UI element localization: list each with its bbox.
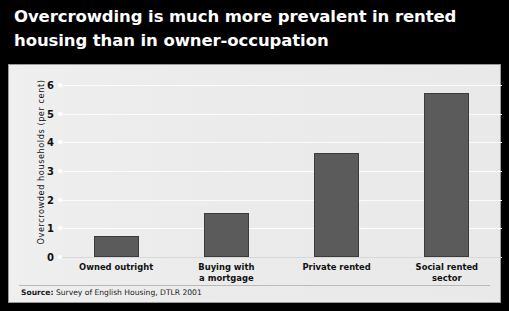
bar-1[interactable] — [204, 213, 249, 257]
y-axis-tick-label: 1 — [47, 223, 54, 234]
bar-2[interactable] — [314, 153, 359, 257]
plot-area: 0123456Owned outrightBuying with a mortg… — [61, 85, 502, 257]
gridline-0 — [61, 257, 502, 258]
y-tick-marker-6 — [58, 83, 62, 87]
source-label: Source: — [21, 288, 54, 297]
x-axis-category-label: Buying with a mortgage — [171, 262, 281, 283]
x-axis-category-label: Social rented sector — [392, 262, 502, 283]
source-note: Source: Survey of English Housing, DTLR … — [21, 288, 202, 297]
y-axis-tick-label: 3 — [47, 166, 54, 177]
y-axis-tick-label: 2 — [47, 194, 54, 205]
source-divider — [19, 285, 490, 286]
chart-panel: Overcrowded households (per cent) 012345… — [8, 64, 501, 303]
y-axis-tick-label: 4 — [47, 137, 54, 148]
y-tick-marker-3 — [58, 169, 62, 173]
y-axis-tick-label: 0 — [47, 252, 54, 263]
bar-0[interactable] — [94, 236, 139, 257]
source-text: Survey of English Housing, DTLR 2001 — [54, 288, 202, 297]
y-tick-marker-1 — [58, 226, 62, 230]
bar-3[interactable] — [424, 93, 469, 257]
title-band: Overcrowding is much more prevalent in r… — [0, 0, 509, 62]
y-axis-title: Overcrowded households (per cent) — [36, 67, 46, 257]
x-axis-category-label: Private rented — [282, 262, 392, 273]
x-axis-category-label: Owned outright — [61, 262, 171, 273]
y-tick-marker-2 — [58, 198, 62, 202]
y-tick-marker-0 — [58, 255, 62, 259]
figure-overcrowding-bar-chart: Overcrowding is much more prevalent in r… — [0, 0, 509, 311]
gridline-6 — [61, 85, 502, 86]
y-tick-marker-5 — [58, 112, 62, 116]
y-axis-tick-label: 6 — [47, 80, 54, 91]
page-title: Overcrowding is much more prevalent in r… — [14, 5, 494, 53]
y-axis-tick-label: 5 — [47, 108, 54, 119]
y-tick-marker-4 — [58, 140, 62, 144]
